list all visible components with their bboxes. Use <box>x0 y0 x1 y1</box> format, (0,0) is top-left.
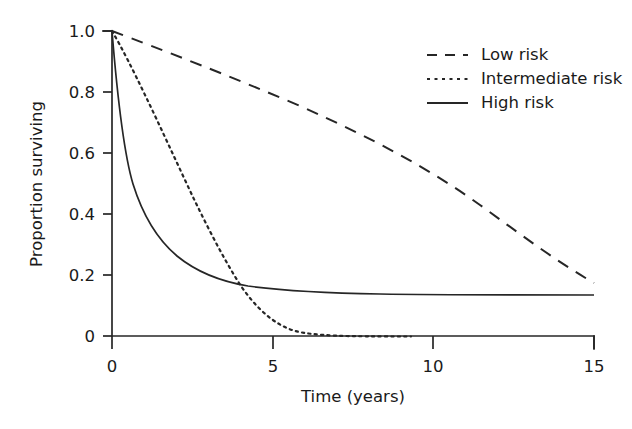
x-axis-ticks <box>112 336 594 349</box>
y-tick-label-5: 1.0 <box>69 22 95 41</box>
y-axis-ticks <box>103 31 112 336</box>
x-tick-label-3: 15 <box>584 357 605 376</box>
x-tick-label-0: 0 <box>107 357 118 376</box>
curve-intermediate-risk <box>112 31 411 337</box>
legend-label-intermediate-risk: Intermediate risk <box>481 69 623 88</box>
x-axis-tick-labels: 0 5 10 15 <box>107 357 605 376</box>
y-axis-title: Proportion surviving <box>27 101 46 267</box>
y-tick-label-3: 0.6 <box>69 144 95 163</box>
y-tick-label-4: 0.8 <box>69 83 95 102</box>
legend-label-low-risk: Low risk <box>481 45 549 64</box>
x-axis-title: Time (years) <box>300 387 405 406</box>
y-tick-label-2: 0.4 <box>69 205 95 224</box>
y-tick-label-0: 0 <box>85 327 96 346</box>
legend-label-high-risk: High risk <box>481 93 554 112</box>
x-tick-label-1: 5 <box>268 357 279 376</box>
survival-curve-figure: 1.0 0.8 0.6 0.4 0.2 0 0 5 10 15 Time (ye… <box>0 0 632 429</box>
y-axis-tick-labels: 1.0 0.8 0.6 0.4 0.2 0 <box>69 22 95 346</box>
chart-canvas: 1.0 0.8 0.6 0.4 0.2 0 0 5 10 15 Time (ye… <box>0 0 632 429</box>
chart-legend: Low risk Intermediate risk High risk <box>427 45 623 112</box>
x-tick-label-2: 10 <box>423 357 444 376</box>
y-tick-label-1: 0.2 <box>69 266 95 285</box>
